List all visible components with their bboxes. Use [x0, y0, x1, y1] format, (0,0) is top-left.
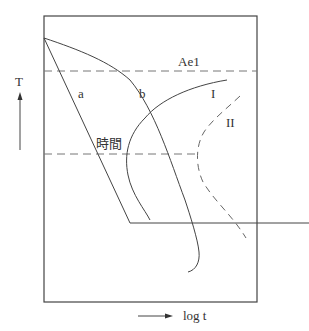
transformation-diagram: Ae1 a b I II 時間 T log t	[0, 0, 309, 331]
cooling-curve-a	[44, 38, 309, 223]
time-label: 時間	[96, 136, 122, 151]
curve-a-label: a	[78, 86, 84, 101]
region-I-label: I	[211, 86, 215, 101]
curve-b-label: b	[139, 86, 146, 101]
plot-frame	[44, 16, 257, 302]
transformation-curve-II	[197, 96, 246, 238]
cooling-curve-b	[44, 38, 199, 272]
y-axis-label: T	[15, 74, 23, 89]
y-axis-arrow-icon	[18, 92, 23, 100]
ae1-label: Ae1	[178, 54, 200, 69]
region-II-label: II	[226, 115, 235, 130]
x-axis-label: log t	[183, 308, 207, 323]
transformation-curve-I	[127, 80, 227, 220]
x-axis-arrow-icon	[165, 314, 173, 319]
